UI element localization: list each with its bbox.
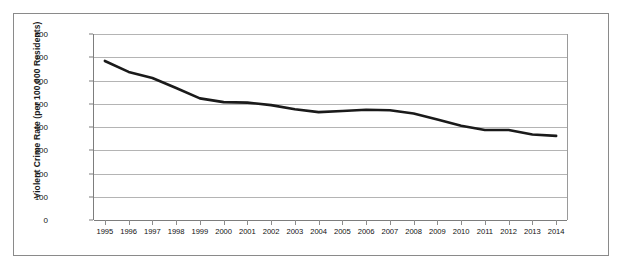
x-tick-mark-2003	[295, 220, 296, 225]
y-tick-label-800: 800	[8, 30, 48, 39]
y-tick-label-0: 0	[8, 216, 48, 225]
x-tick-mark-2000	[224, 220, 225, 225]
y-tick-label-700: 700	[8, 53, 48, 62]
x-tick-mark-2001	[247, 220, 248, 225]
x-tick-mark-2006	[366, 220, 367, 225]
y-tick-label-200: 200	[8, 169, 48, 178]
y-tick-label-100: 100	[8, 192, 48, 201]
y-tick-label-300: 300	[8, 146, 48, 155]
x-tick-mark-2002	[271, 220, 272, 225]
y-tick-label-400: 400	[8, 123, 48, 132]
x-tick-mark-2014	[556, 220, 557, 225]
line-series-violent-crime-rate	[105, 61, 556, 136]
x-tick-mark-2004	[319, 220, 320, 225]
chart-figure: Violent Crime Rate (per 100,000 Resident…	[0, 0, 624, 270]
x-tick-mark-2007	[390, 220, 391, 225]
x-tick-mark-2012	[509, 220, 510, 225]
y-axis-title: Violent Crime Rate (per 100,000 Resident…	[32, 10, 42, 210]
x-tick-mark-2009	[437, 220, 438, 225]
x-tick-mark-1997	[152, 220, 153, 225]
gridline-0	[94, 220, 567, 221]
x-tick-mark-2013	[532, 220, 533, 225]
y-tick-label-600: 600	[8, 76, 48, 85]
x-tick-mark-1998	[176, 220, 177, 225]
data-series-layer	[93, 34, 568, 220]
x-tick-label-2014: 2014	[536, 227, 576, 236]
x-tick-mark-2008	[414, 220, 415, 225]
x-tick-mark-1999	[200, 220, 201, 225]
x-tick-mark-1995	[105, 220, 106, 225]
x-tick-mark-2005	[342, 220, 343, 225]
x-tick-mark-2011	[485, 220, 486, 225]
x-tick-mark-2010	[461, 220, 462, 225]
x-tick-mark-1996	[129, 220, 130, 225]
y-tick-label-500: 500	[8, 99, 48, 108]
